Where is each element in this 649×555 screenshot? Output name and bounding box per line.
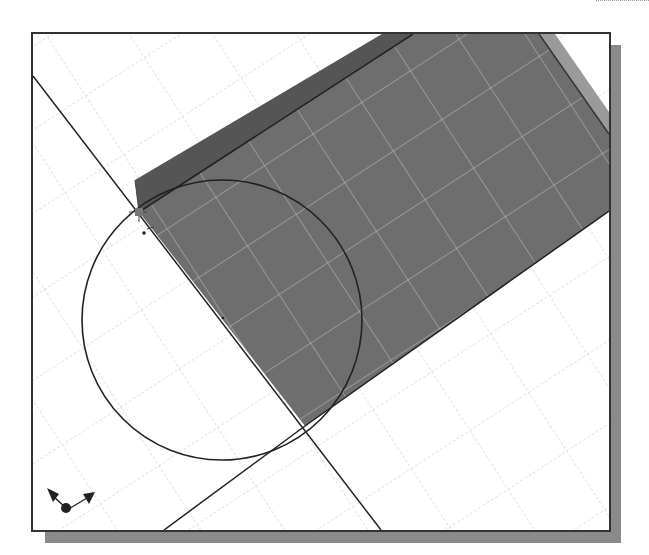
viewport-canvas[interactable]: [33, 34, 609, 530]
top-dotted-rule: [596, 0, 649, 2]
edge-point: [222, 317, 225, 320]
graphics-viewport[interactable]: [31, 32, 611, 532]
